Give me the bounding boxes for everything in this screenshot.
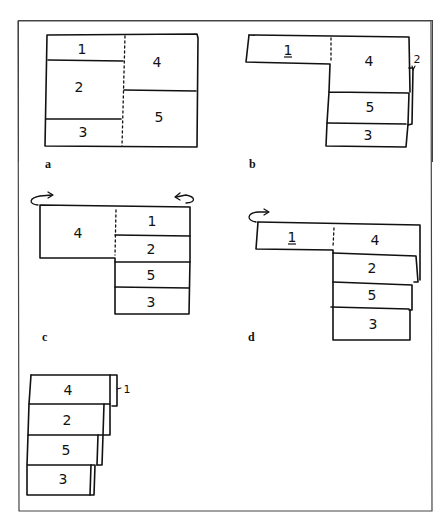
label-e-5: 5 (62, 442, 71, 458)
label-c-5: 5 (147, 267, 156, 283)
panel-e (27, 375, 121, 495)
panel-a (45, 34, 198, 147)
label-b-3: 3 (364, 127, 373, 143)
label-b-4: 4 (365, 53, 374, 69)
label-b-1: 1 (284, 42, 293, 58)
label-e-1-annotation: 1 (124, 383, 131, 396)
folding-diagram: 1 2 3 4 5 1 4 5 3 2 4 1 2 5 3 1 4 2 5 3 … (0, 0, 447, 522)
label-e-2: 2 (63, 412, 72, 428)
panel-b (246, 35, 415, 147)
label-d-5: 5 (368, 287, 377, 303)
label-e-4: 4 (64, 382, 73, 398)
panel-c (31, 192, 193, 314)
label-b-5: 5 (366, 99, 375, 115)
label-b-2-annotation: 2 (414, 53, 421, 66)
label-d-4: 4 (371, 232, 380, 248)
label-e-3: 3 (59, 471, 68, 487)
label-a-1: 1 (78, 41, 87, 57)
label-c-2: 2 (147, 241, 156, 257)
label-a-5: 5 (155, 109, 164, 125)
panel-letter-a: a (45, 157, 51, 171)
panel-letter-d: d (248, 330, 255, 344)
panel-letter-b: b (249, 157, 256, 171)
label-a-2: 2 (75, 79, 84, 95)
label-d-3: 3 (369, 316, 378, 332)
label-a-4: 4 (153, 54, 162, 70)
label-c-3: 3 (147, 294, 156, 310)
label-a-3: 3 (79, 124, 88, 140)
label-d-2: 2 (368, 260, 377, 276)
panel-d (249, 209, 420, 340)
panel-letter-c: c (42, 330, 48, 344)
label-c-4: 4 (74, 225, 83, 241)
label-d-1: 1 (288, 229, 297, 245)
label-c-1: 1 (148, 213, 157, 229)
